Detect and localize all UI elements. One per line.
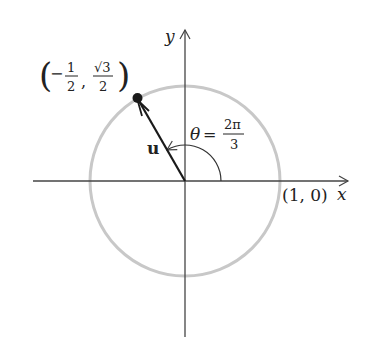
y-axis-label: y — [164, 26, 175, 46]
point-x-numerator: 1 — [67, 60, 75, 75]
point-y-numerator: √3 — [94, 60, 111, 75]
angle-equals: = — [203, 125, 216, 144]
vector-label: u — [147, 138, 159, 158]
x-intercept-label: (1, 0) — [282, 185, 328, 205]
point-y-denominator: 2 — [99, 79, 107, 94]
angle-denominator: 3 — [230, 137, 238, 152]
angle-numerator: 2π — [224, 117, 241, 132]
x-axis-label: x — [337, 184, 347, 204]
point-close-paren: ) — [117, 55, 130, 95]
point-x-denominator: 2 — [67, 79, 75, 94]
point-marker — [133, 93, 143, 103]
point-x-sign: − — [50, 64, 63, 83]
point-comma: , — [81, 72, 86, 91]
angle-label: θ = 2π 3 — [190, 117, 244, 152]
point-label: ( − 1 2 , √3 2 ) — [39, 55, 130, 95]
unit-circle-diagram: y x (1, 0) u θ = 2π 3 ( − 1 2 , √3 2 ) — [0, 0, 375, 361]
angle-symbol: θ — [190, 124, 200, 144]
vector-u — [139, 101, 185, 181]
